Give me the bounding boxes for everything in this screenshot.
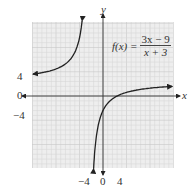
x-tick-0: 0 <box>100 176 106 187</box>
x-axis-label: x <box>182 90 187 101</box>
x-tick-4: 4 <box>117 176 123 187</box>
y-tick-neg4: −4 <box>13 110 25 121</box>
function-lhs: f(x) = <box>112 40 137 52</box>
x-tick-neg4: −4 <box>78 176 90 187</box>
y-tick-0: 0 <box>17 90 23 101</box>
function-numerator: 3x − 9 <box>140 33 170 46</box>
function-fraction: 3x − 9 x + 3 <box>140 33 170 58</box>
y-tick-4: 4 <box>17 71 23 82</box>
y-axis-label: y <box>101 4 106 15</box>
function-graph <box>0 0 192 194</box>
function-label: f(x) = 3x − 9 x + 3 <box>112 33 171 58</box>
function-denominator: x + 3 <box>144 46 167 58</box>
